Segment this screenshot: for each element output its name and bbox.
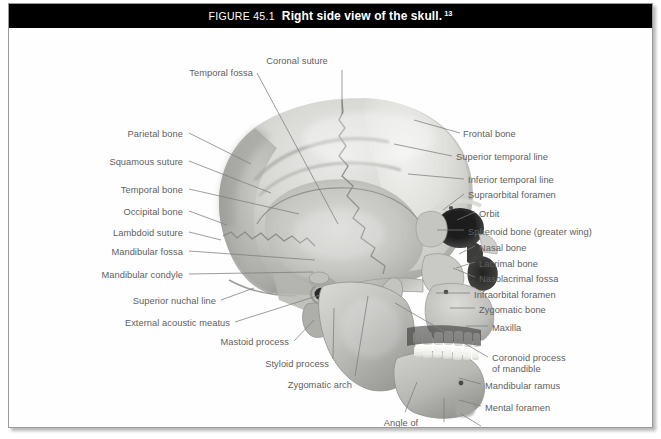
label-coronal-suture: Coronal suture: [266, 56, 328, 67]
label-styloid-process: Styloid process: [265, 359, 329, 370]
figure-plate: Coronal sutureTemporal fossaParietal bon…: [9, 28, 652, 427]
leader-lambdoid-suture: [189, 232, 221, 240]
label-mandibular-condyle: Mandibular condyle: [101, 270, 183, 281]
label-lambdoid-suture: Lambdoid suture: [113, 228, 183, 239]
leader-superior-nuchal-line: [221, 288, 254, 300]
label-zygomatic-bone: Zygomatic bone: [479, 305, 546, 316]
label-superior-temporal-line: Superior temporal line: [456, 152, 548, 163]
label-inferior-temporal-line: Inferior temporal line: [468, 175, 554, 186]
infraorbital-foramen-mark: [444, 290, 449, 295]
label-zygomatic-arch: Zygomatic arch: [288, 380, 352, 391]
figure-reference-superscript: 13: [444, 9, 452, 18]
label-sphenoid-bone: Sphenoid bone (greater wing): [468, 227, 592, 238]
label-nasolacrimal-fossa: Nasolacrimal fossa: [479, 274, 558, 285]
label-superior-nuchal-line: Superior nuchal line: [133, 296, 216, 307]
fossa-highlight: [293, 208, 385, 260]
label-orbit: Orbit: [479, 209, 499, 220]
label-mastoid-process: Mastoid process: [221, 337, 289, 348]
label-coronoid-process: Coronoid process of mandible: [492, 353, 566, 374]
mandibular-condyle-region: [309, 272, 329, 284]
oral-cavity-shadow: [407, 325, 481, 346]
supraorbital-foramen-mark: [449, 206, 453, 210]
label-mandibular-ramus: Mandibular ramus: [485, 381, 560, 392]
label-external-acoustic-meatus: External acoustic meatus: [125, 318, 230, 329]
vault-highlight: [303, 112, 435, 164]
label-squamous-suture: Squamous suture: [109, 157, 183, 168]
label-supraorbital-foramen: Supraorbital foramen: [468, 190, 556, 201]
label-nasal-bone: Nasal bone: [479, 243, 527, 254]
label-temporal-fossa: Temporal fossa: [189, 68, 253, 79]
label-frontal-bone: Frontal bone: [463, 129, 516, 140]
figure-caption-bar: FIGURE 45.1 Right side view of the skull…: [9, 4, 652, 28]
mental-foramen-mark: [459, 381, 464, 386]
label-lacrimal-bone: Lacrimal bone: [479, 259, 538, 270]
figure-number-label: FIGURE 45.1: [209, 10, 275, 22]
label-mandible: Mandible: [422, 426, 460, 427]
label-occipital-bone: Occipital bone: [123, 207, 183, 218]
label-temporal-bone: Temporal bone: [121, 185, 183, 196]
figure-caption: FIGURE 45.1 Right side view of the skull…: [209, 9, 453, 23]
label-angle-of-mandible: Angle of mandible: [382, 418, 420, 427]
figure-frame: FIGURE 45.1 Right side view of the skull…: [8, 3, 653, 428]
label-mandibular-fossa: Mandibular fossa: [111, 247, 183, 258]
label-parietal-bone: Parietal bone: [128, 129, 183, 140]
sphenoid-greater-wing: [416, 211, 447, 247]
label-infraorbital-foramen: Infraorbital foramen: [474, 290, 556, 301]
label-maxilla: Maxilla: [492, 323, 521, 334]
ramus-highlight: [341, 298, 401, 358]
figure-title: Right side view of the skull.: [282, 9, 442, 23]
label-mental-foramen: Mental foramen: [485, 403, 550, 414]
